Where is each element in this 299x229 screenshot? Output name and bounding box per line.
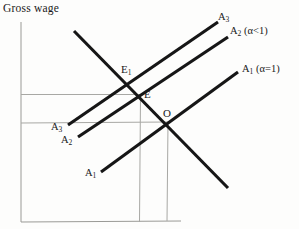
gridline-horizontal-o <box>21 122 169 123</box>
curve-label-a3-bottom-sub: 3 <box>59 125 63 134</box>
curve-label-a3-top-sub: 3 <box>226 15 230 24</box>
point-label-e1-base: E <box>121 63 128 75</box>
demand-curve-group <box>74 31 228 188</box>
curve-label-a1-top-paren: (α=1) <box>253 63 279 74</box>
curve-label-a2-bottom-sub: 2 <box>69 138 73 147</box>
gridline-vertical-o <box>167 123 168 221</box>
curve-label-a2-bottom-base: A <box>61 134 69 145</box>
point-label-e: E <box>144 89 151 100</box>
curve-label-a1-bottom-base: A <box>85 167 93 178</box>
point-label-e1: E1 <box>121 64 131 76</box>
curve-label-a1-bottom-sub: 1 <box>93 171 97 180</box>
supply-curves-group <box>68 22 238 172</box>
point-label-e1-sub: 1 <box>128 68 132 77</box>
curve-demand-line <box>74 31 228 188</box>
point-label-o: O <box>163 108 171 119</box>
x-axis <box>21 221 181 222</box>
gridlines-group <box>21 95 169 223</box>
curve-label-a3-bottom: A3 <box>51 122 62 133</box>
curve-label-a1-top-base: A <box>242 63 250 74</box>
curve-label-a3-top: A3 <box>218 12 229 23</box>
curve-label-a2-top: A2 (α<1) <box>230 26 268 37</box>
curve-label-a3-top-base: A <box>218 11 226 22</box>
gridline-vertical-e <box>140 95 141 222</box>
curve-label-a1-bottom: A1 <box>85 168 96 179</box>
labour-market-diagram: Gross wage A3 A2 (α<1) A1 (α=1) E1 E O A… <box>0 0 299 229</box>
curve-label-a1-top: A1 (α=1) <box>242 64 280 75</box>
curve-label-a2-bottom: A2 <box>61 135 72 146</box>
curve-label-a2-top-paren: (α<1) <box>241 25 267 36</box>
curve-a3-line <box>68 22 218 125</box>
curve-label-a3-bottom-base: A <box>51 121 59 132</box>
curve-label-a2-top-base: A <box>230 25 238 36</box>
y-axis-title: Gross wage <box>3 3 59 15</box>
